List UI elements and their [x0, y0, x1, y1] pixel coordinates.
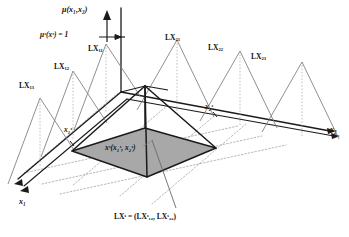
lx11-base: LX	[88, 44, 98, 53]
label-axis-x1: x₁	[19, 198, 26, 206]
label-lx11: LX11	[88, 45, 103, 54]
label-lx12: LX12	[54, 63, 69, 72]
label-point-x1s: x₁ˢ	[64, 126, 72, 134]
lx12-base: LX	[54, 62, 64, 71]
axis-x2-rail	[127, 99, 334, 136]
mu-arrow-head	[103, 10, 111, 20]
label-lx21: LX21	[165, 34, 180, 43]
label-axis-x2: x₂	[330, 126, 337, 134]
x1-arrow-head-b	[20, 186, 29, 193]
label-point-x2s: x₂ˢ	[205, 103, 213, 111]
lx13-sub: 13	[29, 85, 34, 90]
lx12-sub: 12	[64, 66, 69, 71]
support-region-polygon	[72, 128, 216, 177]
label-caption-lxs: LXˢ = (LXˢ₁₂, LXˢ₂₂)	[114, 213, 176, 221]
lx22-sub: 22	[218, 47, 223, 52]
label-membership-value: μˢ(xˢ) = 1	[40, 31, 68, 39]
label-lx13: LX13	[19, 82, 34, 91]
x1-arrow-head-a	[14, 179, 23, 186]
axis-x2	[121, 92, 330, 131]
lx21-base: LX	[165, 33, 175, 42]
axis-x1	[18, 92, 121, 179]
figure-canvas: μ(x₁,x₂) μˢ(xˢ) = 1 LX11 LX12 LX13 LX21 …	[0, 0, 349, 237]
lx21-sub: 21	[175, 37, 180, 42]
lx23-sub: 23	[261, 56, 266, 61]
label-point-xs: xˢ(x₁ˢ, x₂ˢ)	[105, 144, 136, 152]
label-lx23: LX23	[251, 53, 266, 62]
label-mu-axis: μ(x₁,x₂)	[62, 6, 87, 14]
fuzzy-triangles-x2-dotted-drop	[177, 40, 302, 136]
lx13-base: LX	[19, 81, 29, 90]
lx22-base: LX	[208, 43, 218, 52]
lx11-sub: 11	[98, 48, 102, 53]
label-lx22: LX22	[208, 44, 223, 53]
lx23-base: LX	[251, 52, 261, 61]
